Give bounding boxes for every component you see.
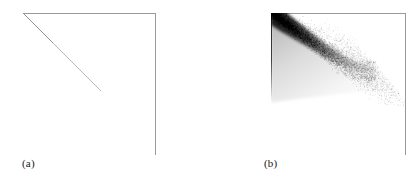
panel-b-plot-area — [271, 13, 405, 106]
panel-a-right-axis — [155, 13, 156, 155]
panel-b: (b) — [209, 0, 418, 181]
panel-a-diagonal-line — [23, 13, 102, 92]
panel-a-caption: (a) — [22, 158, 35, 169]
panel-a: (a) — [0, 0, 209, 181]
panel-a-top-axis — [23, 13, 155, 14]
panel-b-scatter-density — [271, 13, 405, 106]
panel-b-right-axis — [405, 13, 406, 155]
figure: (a) — [0, 0, 418, 181]
panel-b-caption: (b) — [264, 158, 277, 169]
panel-a-plot-area — [23, 13, 155, 155]
